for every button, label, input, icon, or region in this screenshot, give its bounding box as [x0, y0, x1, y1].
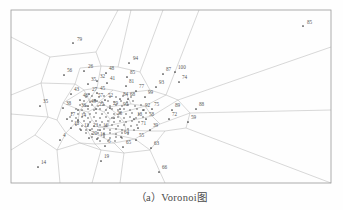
seed-point-dot [96, 138, 98, 140]
seed-point-dot [151, 108, 153, 110]
cluster-point [105, 109, 106, 110]
cluster-point [113, 113, 114, 114]
cluster-point [125, 113, 126, 114]
cluster-point [123, 117, 124, 118]
seed-point-label: 16 [103, 122, 109, 128]
seed-point-label: 100 [178, 64, 186, 70]
seed-point-label: 65 [126, 139, 132, 145]
seed-point-dot [63, 74, 65, 76]
cluster-point [89, 113, 90, 114]
seed-point-label: 81 [129, 78, 135, 84]
seed-point-dot [127, 98, 129, 100]
seed-point-dot [59, 139, 61, 141]
cluster-point [131, 120, 132, 121]
cluster-point [91, 104, 92, 105]
cluster-point [121, 129, 122, 130]
cluster-point [134, 105, 135, 106]
cluster-point [71, 120, 72, 121]
cluster-point [91, 136, 92, 137]
seed-point-dot [72, 42, 74, 44]
cluster-point [125, 121, 126, 122]
cluster-point [115, 96, 116, 97]
seed-point-label: 57 [98, 92, 104, 98]
seed-point-dot [70, 93, 72, 95]
seed-point-dot [39, 105, 41, 107]
cluster-point [103, 95, 104, 96]
seed-point-dot [137, 127, 139, 129]
seed-point-label: 56 [67, 67, 73, 73]
cluster-point [107, 112, 108, 113]
seed-point-label: 29 [113, 100, 119, 106]
seed-point-label: 5 [108, 138, 111, 144]
seed-point-dot [125, 85, 127, 87]
seed-point-dot [88, 137, 90, 139]
cluster-point [109, 105, 110, 106]
seed-point-dot [144, 96, 146, 98]
seed-point-label: 68 [130, 91, 136, 97]
seed-point-label: 38 [66, 100, 72, 106]
seed-point-dot [133, 118, 135, 120]
seed-point-dot [178, 81, 180, 83]
cluster-point [135, 117, 136, 118]
seed-point-label: 58 [149, 111, 155, 117]
figure-caption: （a）Voronoi图 [0, 186, 343, 210]
cluster-point [93, 116, 94, 117]
cluster-point [117, 125, 118, 126]
seed-point-label: 26 [88, 63, 94, 69]
seed-point-dot [302, 25, 304, 27]
seed-point-label: 99 [148, 89, 154, 95]
seed-point-label: 66 [162, 164, 168, 170]
seed-point-dot [100, 160, 102, 162]
cluster-point [119, 120, 120, 121]
seed-point-label: 22 [99, 101, 105, 107]
cluster-point [107, 100, 108, 101]
seed-point-label: 74 [182, 74, 188, 80]
seed-point-dot [155, 86, 157, 88]
seed-point-dot [119, 98, 121, 100]
seed-point-dot [87, 105, 89, 107]
cluster-point [117, 116, 118, 117]
cluster-point [105, 116, 106, 117]
seed-point-label: 35 [43, 98, 49, 104]
cluster-point [87, 117, 88, 118]
cluster-point [136, 108, 137, 109]
cluster-point [109, 132, 110, 133]
seed-point-label: 14 [81, 112, 87, 118]
seed-point-label: 43 [74, 86, 80, 92]
seed-point-label: 94 [133, 55, 139, 61]
voronoi-diagram-svg: 8579945626488587100743532418193774327459… [0, 0, 343, 186]
cluster-point [85, 132, 86, 133]
cluster-point [97, 132, 98, 133]
cluster-point [99, 108, 100, 109]
cluster-point [81, 109, 82, 110]
figure-page: 8579945626488587100743532418193774327459… [0, 0, 343, 210]
cluster-point [142, 116, 143, 117]
cluster-point [111, 124, 112, 125]
seed-point-dot [106, 82, 108, 84]
cluster-point [115, 128, 116, 129]
seed-point-dot [95, 108, 97, 110]
seed-point-dot [96, 80, 98, 82]
seed-point-dot [162, 73, 164, 75]
seed-point-label: 59 [191, 114, 197, 120]
seed-point-label: 45 [100, 85, 106, 91]
cluster-point [75, 108, 76, 109]
seed-point-label: 89 [175, 102, 181, 108]
cluster-point [115, 136, 116, 137]
seed-point-label: 49 [91, 98, 97, 104]
seed-point-label: 90 [123, 101, 129, 107]
seed-point-label: 39 [153, 122, 159, 128]
cluster-point [140, 104, 141, 105]
seed-point-dot [122, 146, 124, 148]
seed-point-dot [109, 107, 111, 109]
seed-point-label: 88 [199, 101, 205, 107]
seed-point-dot [66, 118, 68, 120]
seed-point-label: 16 [100, 131, 106, 137]
seed-point-label: 48 [109, 65, 115, 71]
cluster-point [132, 100, 133, 101]
seed-point-label: 92 [145, 102, 151, 108]
seed-point-label: 27 [92, 86, 98, 92]
seed-point-dot [79, 99, 81, 101]
seed-point-label: 46 [83, 92, 89, 98]
cluster-point [95, 112, 96, 113]
